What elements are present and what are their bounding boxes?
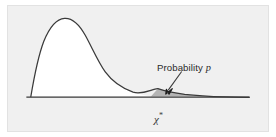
figure-frame: Probability p χ* [7, 5, 269, 132]
probability-annotation-symbol: p [206, 62, 211, 73]
distribution-plot [8, 6, 268, 131]
probability-annotation-text: Probability [157, 62, 206, 73]
probability-pointer-arrow [166, 71, 182, 94]
chi-squared-tail-probability-figure: Probability p χ* [0, 0, 276, 137]
star-superscript: * [159, 111, 163, 120]
critical-value-axis-label: χ* [154, 112, 163, 125]
probability-annotation-label: Probability p [157, 63, 211, 73]
